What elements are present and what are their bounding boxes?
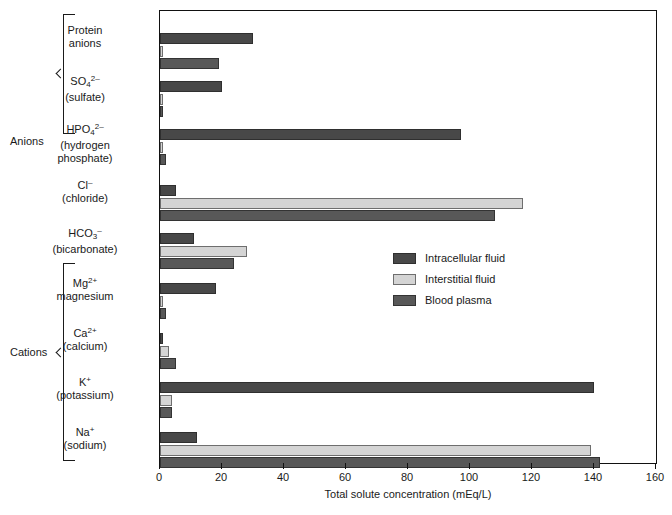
bar-plasma-6	[160, 358, 176, 369]
x-tick-140	[593, 463, 594, 469]
bar-isf-8	[160, 445, 591, 456]
chart-root: Anions Cations Protein anions SO42– (sul…	[0, 0, 672, 515]
cat-line1: Cl	[78, 179, 88, 191]
cat-line3: phosphate)	[57, 152, 112, 164]
bar-plasma-2	[160, 154, 166, 165]
bar-plasma-1	[160, 106, 163, 117]
category-labels: Protein anions SO42– (sulfate) HPO42– (h…	[10, 0, 155, 460]
cat-sup: 2+	[88, 276, 97, 285]
legend-swatch-icf	[393, 253, 416, 264]
cat-sup: +	[86, 375, 91, 384]
cat-line2: (hydrogen	[60, 139, 110, 151]
category-label-protein-anions: Protein anions	[15, 24, 155, 50]
x-tick-60	[345, 463, 346, 469]
bar-isf-3	[160, 198, 523, 209]
cat-line1: Mg	[73, 277, 88, 289]
cat-sup: 2+	[87, 326, 96, 335]
legend: Intracellular fluidInterstitial fluidBlo…	[393, 249, 505, 312]
cat-line2: magnesium	[57, 290, 114, 302]
bar-isf-0	[160, 46, 163, 57]
x-tick-20	[221, 463, 222, 469]
legend-label-icf: Intracellular fluid	[425, 252, 505, 264]
bar-isf-6	[160, 346, 169, 357]
x-tick-label-0: 0	[156, 471, 162, 483]
bar-icf-6	[160, 333, 163, 344]
cat-sup: 2–	[91, 74, 100, 83]
bar-plasma-5	[160, 308, 166, 319]
bar-plasma-4	[160, 258, 234, 269]
bar-icf-8	[160, 432, 197, 443]
x-tick-label-20: 20	[215, 471, 227, 483]
plot-area	[159, 10, 657, 464]
legend-item-isf: Interstitial fluid	[393, 270, 505, 288]
bar-icf-4	[160, 233, 194, 244]
x-tick-label-100: 100	[460, 471, 478, 483]
cat-line2: (calcium)	[63, 340, 108, 352]
bar-isf-2	[160, 142, 163, 153]
bars-container	[160, 11, 656, 463]
category-label-bicarbonate: HCO3– (bicarbonate)	[15, 224, 155, 256]
bar-isf-1	[160, 94, 163, 105]
bar-isf-7	[160, 395, 172, 406]
bar-isf-4	[160, 246, 247, 257]
legend-label-isf: Interstitial fluid	[425, 273, 495, 285]
cat-line1: HPO	[66, 123, 90, 135]
cat-line1: HCO	[68, 227, 92, 239]
x-tick-40	[283, 463, 284, 469]
category-label-calcium: Ca2+ (calcium)	[15, 324, 155, 353]
category-label-hydrogen-phosphate: HPO42– (hydrogen phosphate)	[15, 120, 155, 165]
x-tick-100	[469, 463, 470, 469]
category-label-sodium: Na+ (sodium)	[15, 423, 155, 452]
x-tick-label-120: 120	[522, 471, 540, 483]
legend-item-plasma: Blood plasma	[393, 291, 505, 309]
legend-item-icf: Intracellular fluid	[393, 249, 505, 267]
bar-plasma-0	[160, 58, 219, 69]
cat-line2: (potassium)	[56, 389, 113, 401]
x-axis-title: Total solute concentration (mEq/L)	[159, 488, 657, 500]
bar-icf-7	[160, 382, 594, 393]
cat-line1: SO	[70, 75, 86, 87]
cat-sup: +	[90, 425, 95, 434]
bar-icf-2	[160, 129, 461, 140]
category-label-chloride: Cl– (chloride)	[15, 176, 155, 205]
x-tick-80	[407, 463, 408, 469]
x-tick-label-40: 40	[277, 471, 289, 483]
x-tick-120	[531, 463, 532, 469]
legend-label-plasma: Blood plasma	[425, 294, 492, 306]
cat-line2: (bicarbonate)	[53, 243, 118, 255]
bar-isf-5	[160, 296, 163, 307]
cat-line2: anions	[69, 37, 101, 49]
legend-swatch-plasma	[393, 295, 416, 306]
x-tick-label-60: 60	[339, 471, 351, 483]
cat-sup: –	[97, 226, 101, 235]
x-axis: 020406080100120140160	[159, 463, 657, 489]
cat-line2: (sulfate)	[65, 91, 105, 103]
category-label-potassium: K+ (potassium)	[15, 373, 155, 402]
x-tick-label-160: 160	[646, 471, 664, 483]
cat-sup: –	[88, 178, 92, 187]
cat-line1: Ca	[73, 327, 87, 339]
category-label-magnesium: Mg2+ magnesium	[15, 274, 155, 303]
bar-plasma-7	[160, 407, 172, 418]
x-tick-label-140: 140	[584, 471, 602, 483]
cat-line2: (chloride)	[62, 192, 108, 204]
cat-sup: 2–	[95, 122, 104, 131]
bar-icf-1	[160, 81, 222, 92]
bar-icf-3	[160, 185, 176, 196]
bar-icf-0	[160, 33, 253, 44]
bar-icf-5	[160, 283, 216, 294]
category-label-sulfate: SO42– (sulfate)	[15, 72, 155, 104]
x-tick-0	[159, 463, 160, 469]
cat-line1: Na	[76, 426, 90, 438]
legend-swatch-isf	[393, 274, 416, 285]
x-tick-160	[655, 463, 656, 469]
cat-line2: (sodium)	[64, 439, 107, 451]
cat-line1: Protein	[68, 24, 103, 36]
x-tick-label-80: 80	[401, 471, 413, 483]
bar-plasma-3	[160, 210, 495, 221]
